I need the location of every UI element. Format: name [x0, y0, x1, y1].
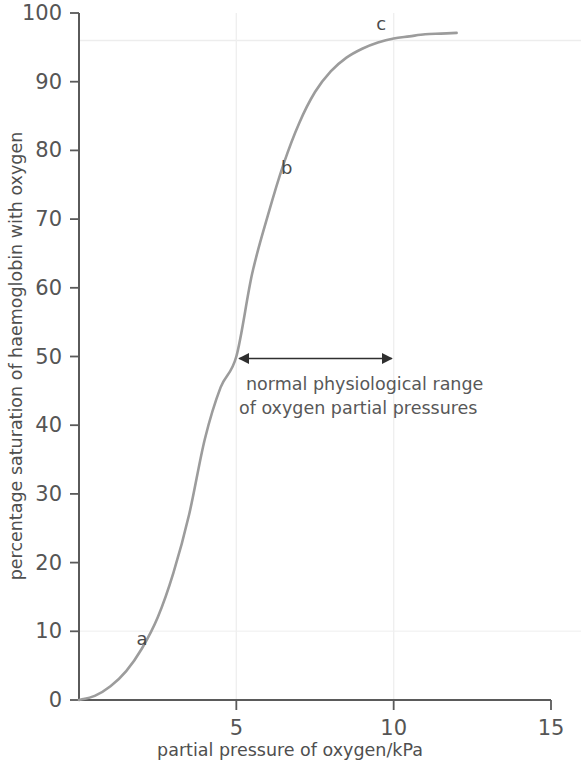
x-axis-ticks [236, 700, 551, 710]
y-tick-label-60: 60 [35, 276, 62, 300]
curve-label-b: b [281, 157, 292, 178]
y-tick-label-0: 0 [49, 688, 62, 712]
dissociation-curve [79, 33, 457, 700]
x-tick-label-5: 5 [230, 716, 243, 740]
curve-point-labels: abc [136, 13, 386, 649]
curve-label-c: c [376, 13, 386, 34]
y-axis-tick-labels: 0102030405060708090100 [22, 1, 62, 712]
oxygen-dissociation-chart: 0102030405060708090100 51015 abc normal … [0, 0, 581, 782]
y-tick-label-100: 100 [22, 1, 62, 25]
y-axis-title: percentage saturation of haemoglobin wit… [6, 132, 26, 581]
x-tick-label-15: 15 [538, 716, 565, 740]
gridlines [79, 13, 581, 700]
x-axis-title: partial pressure of oxygen/kPa [157, 740, 423, 760]
y-axis-ticks [70, 13, 79, 700]
y-tick-label-80: 80 [35, 138, 62, 162]
annotation-line-1: normal physiological range [246, 374, 483, 394]
y-tick-label-20: 20 [35, 551, 62, 575]
annotation-line-2: of oxygen partial pressures [239, 398, 477, 418]
x-tick-label-10: 10 [380, 716, 407, 740]
x-axis-tick-labels: 51015 [230, 716, 565, 740]
y-tick-label-90: 90 [35, 70, 62, 94]
y-tick-label-70: 70 [35, 207, 62, 231]
y-tick-label-50: 50 [35, 345, 62, 369]
y-tick-label-40: 40 [35, 413, 62, 437]
curve-label-a: a [136, 628, 147, 649]
chart-canvas: 0102030405060708090100 51015 abc normal … [0, 0, 581, 782]
y-tick-label-30: 30 [35, 482, 62, 506]
axes [70, 13, 551, 710]
y-tick-label-10: 10 [35, 619, 62, 643]
